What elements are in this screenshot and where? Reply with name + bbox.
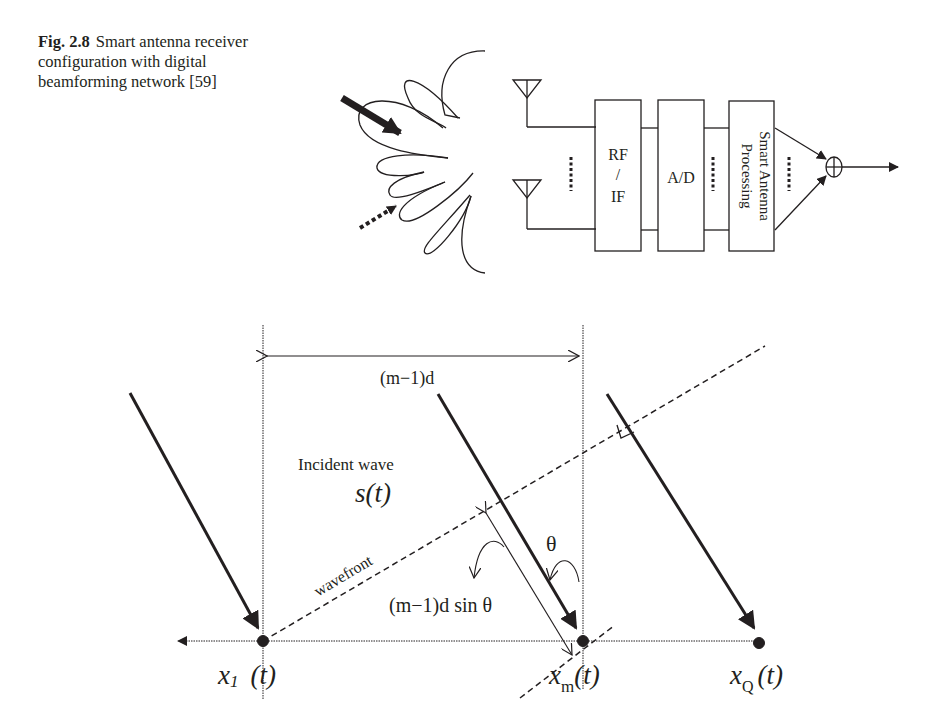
path-difference-label: (m−1)d sin θ: [389, 594, 492, 617]
ray-1: [130, 393, 258, 628]
element-m-label: xm(t): [548, 660, 600, 696]
wavefront-line: [263, 346, 765, 641]
antenna-n-icon: [513, 180, 596, 229]
element-q-label: xQ(t): [729, 660, 783, 695]
element-q-dot: [754, 638, 765, 649]
ray-m: [438, 394, 576, 628]
radiation-pattern: [359, 51, 485, 273]
antenna-1-icon: [513, 80, 596, 127]
ray-q: [607, 394, 754, 628]
array-labels: (m−1)d Incident wave s(t) wavefront (m−1…: [217, 368, 783, 696]
wavefront-label: wavefront: [311, 551, 376, 599]
slash-label: /: [616, 166, 621, 183]
element-1-dot: [258, 636, 269, 647]
path-difference-arrow: [486, 513, 572, 655]
smart-antenna-label: Smart Antenna: [757, 131, 773, 221]
spacing-label: (m−1)d: [380, 368, 434, 389]
element-m-dot: [578, 636, 589, 647]
if-label: IF: [611, 188, 625, 205]
interference-arrow: [360, 206, 396, 228]
theta-label: θ: [546, 531, 557, 556]
block-labels: RF / IF A/D Smart Antenna Processing: [608, 131, 773, 221]
delay-pointer: [474, 541, 504, 578]
ad-label: A/D: [667, 169, 695, 186]
rf-label: RF: [608, 146, 628, 163]
signal-label: s(t): [355, 478, 391, 508]
incident-wave-label: Incident wave: [298, 455, 394, 474]
desired-signal-arrow: [342, 98, 400, 133]
angle-arc: [550, 561, 579, 582]
processing-label: Processing: [739, 144, 755, 209]
uniform-linear-array-diagram: [130, 325, 765, 700]
figure-canvas: RF / IF A/D Smart Antenna Processing: [0, 0, 933, 718]
element-1-label: x1(t): [217, 660, 276, 691]
